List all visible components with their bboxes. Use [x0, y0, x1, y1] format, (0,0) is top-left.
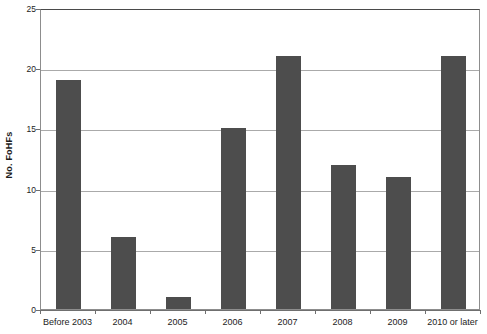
bar — [111, 237, 136, 309]
gridline — [41, 251, 479, 252]
bar — [166, 297, 191, 309]
x-tick-mark — [260, 310, 261, 314]
x-tick-mark — [480, 310, 481, 314]
bar — [441, 56, 466, 309]
gridline — [41, 191, 479, 192]
bar — [221, 128, 246, 309]
x-tick-label: 2008 — [332, 317, 352, 327]
gridline — [41, 130, 479, 131]
bar — [386, 177, 411, 309]
x-tick-label: 2007 — [277, 317, 297, 327]
x-tick-mark — [205, 310, 206, 314]
x-tick-label: 2009 — [387, 317, 407, 327]
y-axis-title: No. FoHFs — [0, 0, 18, 310]
x-tick-mark — [315, 310, 316, 314]
bar-chart-figure: No. FoHFs 0510152025 Before 200320042005… — [0, 0, 487, 334]
x-tick-label: 2010 or later — [427, 317, 478, 327]
x-tick-mark — [425, 310, 426, 314]
x-tick-mark — [370, 310, 371, 314]
x-tick-mark — [150, 310, 151, 314]
x-tick-mark — [95, 310, 96, 314]
plot-area — [40, 9, 480, 310]
y-axis-title-label: No. FoHFs — [4, 132, 14, 179]
x-tick-label: 2005 — [167, 317, 187, 327]
bar — [331, 165, 356, 309]
x-tick-label: Before 2003 — [43, 317, 92, 327]
x-tick-label: 2006 — [222, 317, 242, 327]
x-tick-mark — [40, 310, 41, 314]
bar — [276, 56, 301, 309]
gridline — [41, 70, 479, 71]
x-tick-label: 2004 — [112, 317, 132, 327]
bar — [56, 80, 81, 309]
